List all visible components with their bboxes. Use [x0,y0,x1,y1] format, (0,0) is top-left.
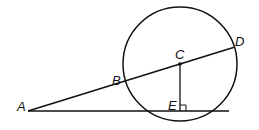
label-E: E [168,98,177,113]
right-angle-marker [180,105,186,111]
geometry-diagram: A B C D E [0,0,259,130]
label-A: A [16,99,26,114]
secant-line-AD [28,47,235,111]
label-C: C [175,47,185,62]
label-D: D [235,34,244,49]
center-point-C [178,62,182,66]
label-B: B [112,73,121,88]
